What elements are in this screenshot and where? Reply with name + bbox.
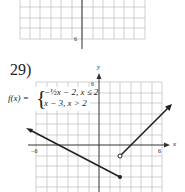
x-tick-neg6: −6 (31, 148, 37, 154)
case-2: x − 3, x > 2 (44, 98, 98, 109)
function-definition: f(x) = { −½x − 2, x ≤ 2 x − 3, x > 2 (8, 87, 90, 111)
function-lhs: f(x) = (8, 93, 29, 104)
x-axis-label: x (173, 141, 176, 148)
x-tick-6: 6 (158, 148, 161, 154)
y-axis-label: y (97, 64, 100, 71)
case-1: −½x − 2, x ≤ 2 (44, 87, 98, 98)
